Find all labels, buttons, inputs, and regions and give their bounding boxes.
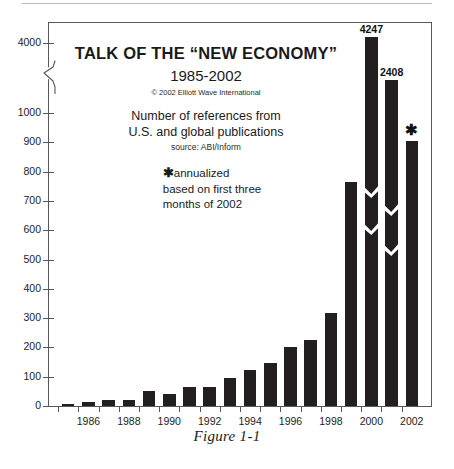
x-axis-label: 1988	[117, 415, 140, 427]
y-axis-label: 700	[0, 194, 41, 206]
chart-subtitle: 1985-2002	[56, 67, 356, 84]
asterisk-icon: ✱	[163, 165, 174, 180]
x-axis-tick	[361, 407, 362, 412]
bar-1991	[183, 387, 196, 406]
y-axis-tick	[43, 377, 54, 378]
y-axis-label: 600	[0, 223, 41, 235]
y-axis-label: 400	[0, 282, 41, 294]
bar-1997	[304, 340, 317, 406]
source-line: source: ABI/Inform	[56, 142, 356, 152]
x-axis-tick	[280, 407, 281, 412]
y-axis-tick	[43, 113, 54, 114]
page-top-rule	[22, 3, 432, 4]
footnote-text-1: annualized	[174, 167, 230, 179]
y-axis-tick	[43, 260, 54, 261]
chart-title: TALK OF THE “NEW ECONOMY”	[56, 44, 356, 63]
bar-1986	[82, 402, 95, 406]
bar-1995	[264, 363, 277, 406]
bar-1988	[123, 400, 136, 406]
y-axis-tick	[43, 43, 54, 44]
x-axis-tick	[99, 407, 100, 412]
y-axis-tick	[43, 347, 54, 348]
y-axis-label: 200	[0, 340, 41, 352]
footnote-block: ✱annualized based on first three months …	[163, 165, 261, 212]
figure-caption: Figure 1-1	[0, 428, 454, 445]
y-axis-tick	[43, 142, 54, 143]
x-axis-tick	[301, 407, 302, 412]
bar-annotation-asterisk: ✱	[405, 122, 418, 137]
bar-value-label-2001: 2408	[380, 66, 403, 78]
y-axis-tick	[43, 172, 54, 173]
footnote-line-3: months of 2002	[163, 197, 261, 212]
bar-1992	[203, 387, 216, 406]
y-axis-label: 300	[0, 311, 41, 323]
x-axis-tick	[381, 407, 382, 412]
x-axis-tick	[179, 407, 180, 412]
axis-break-icon	[41, 60, 57, 94]
x-axis-tick	[78, 407, 79, 412]
bar-2000	[365, 37, 378, 406]
x-axis-label: 2002	[400, 415, 423, 427]
y-axis-tick	[43, 318, 54, 319]
x-axis-tick	[240, 407, 241, 412]
x-axis-tick	[139, 407, 140, 412]
footnote-line-1: ✱annualized	[163, 165, 261, 182]
x-axis-tick	[220, 407, 221, 412]
bar-1996	[284, 347, 297, 406]
bar-2001	[385, 80, 398, 406]
y-axis-tick	[43, 201, 54, 202]
description-line-1: Number of references from	[56, 109, 356, 125]
bar-2002	[406, 141, 419, 406]
y-axis-label: 4000	[0, 36, 41, 48]
x-axis-label: 2000	[360, 415, 383, 427]
footnote-line-2: based on first three	[163, 182, 261, 197]
x-axis-label: 1986	[77, 415, 100, 427]
bar-1987	[102, 400, 115, 406]
y-axis-tick	[43, 230, 54, 231]
x-axis-tick	[321, 407, 322, 412]
x-axis-label: 1994	[238, 415, 261, 427]
bar-1994	[244, 370, 257, 406]
y-axis-label: 900	[0, 135, 41, 147]
x-axis-tick	[119, 407, 120, 412]
bar-1999	[345, 182, 358, 406]
x-axis-tick	[58, 407, 59, 412]
bar-1990	[163, 394, 176, 406]
y-axis-label: 0	[0, 399, 41, 411]
x-axis-tick	[159, 407, 160, 412]
bar-1993	[224, 378, 237, 406]
x-axis-tick	[341, 407, 342, 412]
bar-1985	[62, 404, 75, 406]
x-axis-tick	[200, 407, 201, 412]
chart-description: Number of references from U.S. and globa…	[56, 109, 356, 140]
y-axis-label: 800	[0, 165, 41, 177]
x-axis-label: 1990	[158, 415, 181, 427]
copyright-line: © 2002 Elliott Wave International	[56, 88, 356, 97]
y-axis-tick	[43, 406, 54, 407]
y-axis-label: 100	[0, 370, 41, 382]
description-line-2: U.S. and global publications	[56, 125, 356, 141]
x-axis-label: 1998	[319, 415, 342, 427]
bar-1998	[325, 313, 338, 406]
y-axis-label: 500	[0, 253, 41, 265]
y-axis-label: 1000	[0, 106, 41, 118]
x-axis-label: 1992	[198, 415, 221, 427]
figure-root: 010020030040050060070080090010004000 198…	[0, 0, 454, 469]
x-axis-label: 1996	[279, 415, 302, 427]
x-axis-tick	[402, 407, 403, 412]
bar-value-label-2000: 4247	[360, 23, 383, 35]
x-axis-tick	[260, 407, 261, 412]
bar-1989	[143, 391, 156, 406]
inset-text-block: TALK OF THE “NEW ECONOMY” 1985-2002 © 20…	[56, 44, 356, 212]
y-axis-tick	[43, 289, 54, 290]
